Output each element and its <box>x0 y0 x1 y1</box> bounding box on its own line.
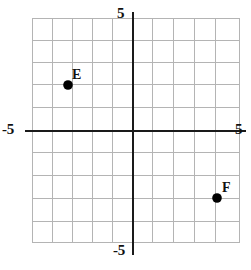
axis-label-y-top: 5 <box>117 6 124 21</box>
axis-label-y-bottom: -5 <box>113 243 125 258</box>
point-f-dot <box>212 193 222 203</box>
plotted-points-group <box>63 80 222 203</box>
axis-label-x-left: -5 <box>2 122 14 137</box>
coordinate-plane-figure: 5 -5 -5 5 E F <box>0 0 251 270</box>
point-label-e: E <box>72 68 81 82</box>
axes <box>25 12 246 255</box>
axis-label-x-right: 5 <box>235 122 242 137</box>
point-label-f: F <box>222 181 231 195</box>
coordinate-grid-canvas <box>0 0 251 270</box>
